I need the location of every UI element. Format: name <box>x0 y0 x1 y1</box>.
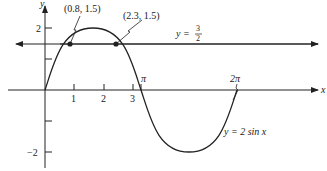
line-label-num: 3 <box>196 24 200 33</box>
curve-label: y = 2 sin x <box>223 126 267 137</box>
line-label-prefix: y = <box>175 28 190 39</box>
leader-line-2pi <box>233 84 238 100</box>
x-tick-label-3: 3 <box>130 93 135 104</box>
x-tick-label-pi: π <box>141 73 147 84</box>
sine-graph: x y 2 −2 1 2 3 π 2π y = 3 2 y = 2 sin x … <box>0 0 327 171</box>
x-tick-label-1: 1 <box>71 93 76 104</box>
y-tick-label-neg2: −2 <box>27 147 38 158</box>
line-label-den: 2 <box>196 34 200 43</box>
x-axis-label: x <box>320 84 326 95</box>
x-tick-label-2: 2 <box>101 93 106 104</box>
x-tick-label-2pi: 2π <box>230 73 241 84</box>
point-label-2: (2.3, 1.5) <box>123 10 160 22</box>
leader-line-2 <box>116 20 142 44</box>
y-axis-label: y <box>39 0 45 9</box>
leader-line-1 <box>70 16 80 44</box>
point-label-1: (0.8, 1.5) <box>64 3 101 15</box>
y-tick-label-2: 2 <box>36 23 41 34</box>
